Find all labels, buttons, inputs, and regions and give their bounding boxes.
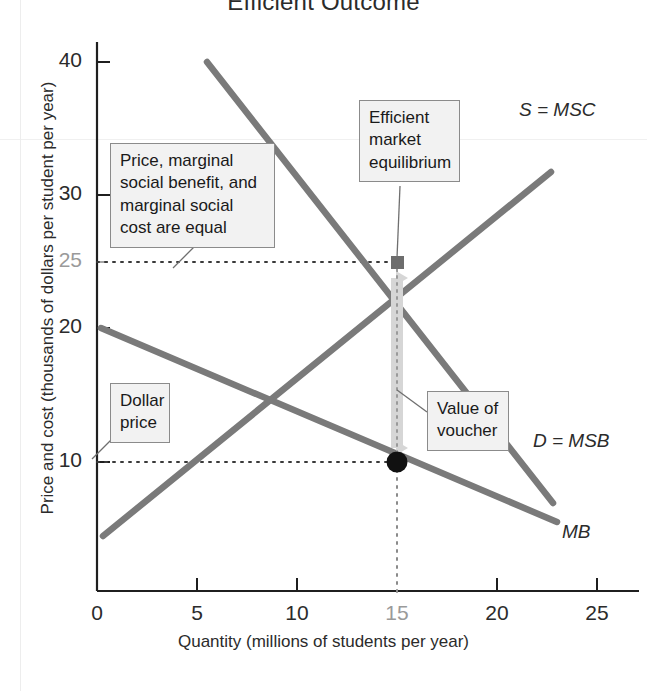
callout-value-of-voucher: Value of voucher — [427, 391, 509, 451]
curve-label-supply: S = MSC — [519, 99, 596, 121]
leader-line-price-equal — [173, 245, 196, 268]
dollar-price-marker — [387, 452, 408, 473]
x-tick-label-20: 20 — [474, 601, 520, 625]
callout-price-msb-msc-equal: Price, marginal social benefit, and marg… — [110, 143, 275, 248]
y-tick-label-25: 25 — [36, 248, 82, 272]
y-tick-label-40: 40 — [36, 48, 82, 72]
y-tick-label-30: 30 — [36, 181, 82, 205]
x-tick-label-15: 15 — [374, 601, 420, 625]
x-tick-label-0: 0 — [74, 601, 120, 625]
x-tick-label-25: 25 — [574, 601, 620, 625]
efficient-outcome-figure: Efficient Outcome Price and cost (thousa… — [0, 0, 647, 691]
x-tick-label-10: 10 — [274, 601, 320, 625]
curve-label-mb: MB — [562, 521, 591, 543]
leader-line-equilibrium — [397, 186, 400, 258]
y-tick-label-10: 10 — [36, 448, 82, 472]
y-tick-label-20: 20 — [36, 314, 82, 338]
callout-dollar-price: Dollar price — [110, 383, 170, 443]
curve-label-demand: D = MSB — [533, 430, 610, 452]
callout-efficient-equilibrium: Efficient market equilibrium — [359, 100, 460, 182]
x-tick-label-5: 5 — [174, 601, 220, 625]
